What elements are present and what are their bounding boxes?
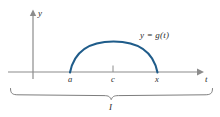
y-axis-label: y	[38, 9, 42, 18]
interval-brace	[11, 89, 213, 100]
interval-label: I	[109, 103, 112, 112]
t-axis-label: t	[205, 75, 208, 84]
y-axis-arrowhead	[30, 10, 36, 17]
point-label-a: a	[68, 75, 72, 84]
curve-equation-label: y = g(t)	[140, 31, 169, 40]
t-axis-group	[8, 69, 204, 76]
point-label-c: c	[111, 75, 115, 84]
curve-g-of-t	[70, 42, 158, 73]
t-axis-arrowhead	[197, 69, 204, 76]
figure-container: y t a c x y = g(t) I	[0, 0, 220, 117]
y-axis-group	[30, 10, 36, 80]
point-label-x: x	[155, 75, 159, 84]
figure-canvas	[0, 0, 220, 117]
